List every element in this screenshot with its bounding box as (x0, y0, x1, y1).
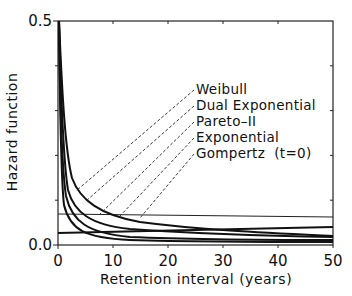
x-tick-label-20: 20 (158, 252, 177, 270)
x-axis-title: Retention interval (years) (100, 271, 292, 287)
hazard-function-chart: 0.5 0.0 0 10 20 30 40 50 Retention inter… (0, 0, 352, 296)
legend-label-gompertz: Gompertz (t=0) (196, 145, 312, 161)
legend-label-exponential: Exponential (196, 129, 279, 145)
x-tick-label-10: 10 (103, 252, 122, 270)
x-tick-label-40: 40 (268, 252, 287, 270)
legend-leader-lines (76, 90, 194, 218)
legend-label-pareto-ii: Pareto–II (196, 113, 256, 129)
legend-label-weibull: Weibull (196, 81, 247, 97)
x-tick-label-30: 30 (213, 252, 232, 270)
y-ticks (53, 21, 333, 245)
legend-label-dual-exponential: Dual Exponential (196, 97, 316, 113)
reference-line (58, 214, 333, 217)
y-tick-label-bottom: 0.0 (28, 236, 52, 254)
y-axis-title: Hazard function (4, 73, 20, 192)
y-tick-label-top: 0.5 (28, 12, 52, 30)
x-tick-label-50: 50 (323, 252, 342, 270)
x-tick-label-0: 0 (53, 252, 63, 270)
